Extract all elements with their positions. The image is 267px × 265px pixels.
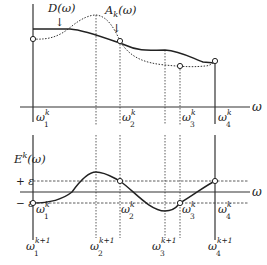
error-marker-4 xyxy=(212,178,217,183)
svg-text:k: k xyxy=(130,200,135,209)
top-tick-w3: ω k 3 xyxy=(182,108,196,129)
bottom-inner-tick-w2: ω k 2 xyxy=(121,200,135,221)
d-omega-label: D(ω) xyxy=(47,1,76,15)
error-marker-2 xyxy=(117,178,122,183)
bottom-outer-tick-w1: ω k+1 1 xyxy=(26,236,51,258)
extremum-marker-3 xyxy=(177,63,182,68)
svg-text:4: 4 xyxy=(226,120,231,129)
extremum-marker-2 xyxy=(117,38,122,43)
extremum-marker-1 xyxy=(30,36,35,41)
svg-text:2: 2 xyxy=(130,120,135,129)
bottom-outer-tick-w3: ω k+1 3 xyxy=(152,236,177,258)
svg-text:k: k xyxy=(45,200,50,209)
svg-text:3: 3 xyxy=(190,120,195,129)
svg-text:1: 1 xyxy=(44,212,49,221)
svg-text:k: k xyxy=(227,200,232,209)
svg-text:k: k xyxy=(45,108,50,117)
error-marker-1 xyxy=(30,200,35,205)
svg-text:k+1: k+1 xyxy=(99,236,115,245)
svg-text:2: 2 xyxy=(129,212,134,221)
svg-text:3: 3 xyxy=(190,212,195,221)
svg-text:k: k xyxy=(191,108,196,117)
bottom-inner-tick-w4: ω k 4 xyxy=(218,200,232,221)
bottom-omega-axis-label: ω xyxy=(252,185,262,199)
svg-text:3: 3 xyxy=(160,249,165,258)
d-omega-arrow-icon: ↓ xyxy=(55,16,64,29)
top-omega-axis-label: ω xyxy=(252,100,262,114)
svg-text:k: k xyxy=(191,200,196,209)
svg-text:k+1: k+1 xyxy=(217,236,233,245)
bottom-plot: ω + ε − ε Ek(ω) ω k 1 ω k 2 ω xyxy=(13,135,262,258)
bottom-inner-tick-w1: ω k 1 xyxy=(36,200,50,221)
svg-text:1: 1 xyxy=(34,249,39,258)
bottom-outer-tick-w4: ω k+1 4 xyxy=(208,236,233,258)
bottom-inner-tick-w3: ω k 3 xyxy=(182,200,196,221)
remez-exchange-diagram: ω D(ω) ↓ Ak(ω) ↓ ω k 1 ω k 2 ω xyxy=(0,0,267,265)
top-plot: ω D(ω) ↓ Ak(ω) ↓ ω k 1 ω k 2 ω xyxy=(20,1,262,129)
plus-epsilon-label: + ε xyxy=(16,175,34,187)
bottom-outer-tick-w2: ω k+1 2 xyxy=(90,236,115,258)
a-k-label: Ak(ω) xyxy=(104,3,137,19)
svg-text:k+1: k+1 xyxy=(161,236,177,245)
top-tick-w2: ω k 2 xyxy=(122,108,136,129)
top-tick-w1: ω k 1 xyxy=(36,108,50,129)
svg-text:k+1: k+1 xyxy=(35,236,51,245)
top-tick-w4: ω k 4 xyxy=(218,108,232,129)
svg-text:k: k xyxy=(227,108,232,117)
error-function-label: Ek(ω) xyxy=(13,151,46,166)
svg-text:4: 4 xyxy=(216,249,221,258)
svg-text:2: 2 xyxy=(98,249,103,258)
svg-text:k: k xyxy=(131,108,136,117)
extremum-marker-4 xyxy=(212,58,217,63)
svg-text:4: 4 xyxy=(226,212,231,221)
svg-text:1: 1 xyxy=(44,120,49,129)
a-k-arrow-icon: ↓ xyxy=(112,22,121,35)
